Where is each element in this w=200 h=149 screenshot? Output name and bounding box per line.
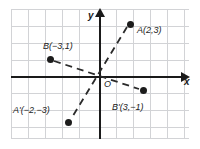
x-axis-label: x <box>184 76 190 87</box>
point-label-a-prime: A'(−2,−3) <box>13 105 50 115</box>
point-a-prime[interactable] <box>65 119 72 126</box>
segment-layer <box>0 0 200 149</box>
coordinate-plane-diagram: A(2,3) B(−3,1) A'(−2,−3) B'(3,−1) y x O <box>0 0 200 149</box>
point-b[interactable] <box>47 56 54 63</box>
origin-label: O <box>104 79 111 89</box>
point-a[interactable] <box>127 21 134 28</box>
point-label-a: A(2,3) <box>137 25 162 35</box>
segment-b-to-b-prime <box>54 61 139 89</box>
point-label-b-prime: B'(3,−1) <box>112 102 143 112</box>
y-axis-label: y <box>88 10 94 21</box>
point-label-b: B(−3,1) <box>43 41 73 51</box>
point-b-prime[interactable] <box>140 87 147 94</box>
